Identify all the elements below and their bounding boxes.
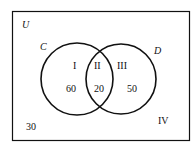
region-ii-value: 20 [94,83,104,94]
region-iv-value: 30 [26,121,36,132]
region-i-label: I [73,60,76,71]
venn-diagram: U C D I II III IV 60 20 50 30 [0,0,194,145]
set-d-label: D [153,45,162,56]
set-c-label: C [40,41,47,52]
set-c-circle [41,43,113,115]
region-iii-label: III [117,60,127,71]
region-ii-label: II [94,60,101,71]
set-d-circle [86,44,156,114]
region-i-value: 60 [66,83,76,94]
region-iii-value: 50 [127,83,137,94]
universe-label: U [22,19,30,30]
region-iv-label: IV [158,115,169,126]
